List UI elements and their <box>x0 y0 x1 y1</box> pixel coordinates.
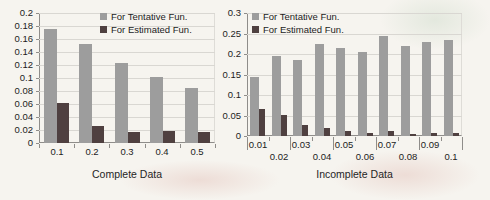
bar-estimated <box>259 109 265 136</box>
x-axis-tick-label: 0.09 <box>412 140 448 150</box>
x-axis-tick <box>398 137 399 141</box>
y-axis-tick <box>244 75 247 76</box>
y-axis-tick-label: 0 <box>0 138 33 148</box>
bar-tentative <box>185 88 198 143</box>
y-gridline <box>39 52 215 53</box>
x-axis-tick-label: 0.08 <box>390 152 426 162</box>
bar-estimated <box>163 131 175 143</box>
legend-label: For Tentative Fun. <box>263 11 339 22</box>
bar-estimated <box>324 128 330 136</box>
x-axis-tick <box>312 137 313 141</box>
x-axis-tick <box>74 144 75 148</box>
x-axis-tick <box>180 144 181 148</box>
bar-estimated <box>388 131 394 136</box>
bar-estimated <box>281 115 287 136</box>
y-axis-tick-label: 0.1 <box>0 73 33 83</box>
bar-tentative <box>79 44 92 143</box>
y-axis-tick <box>36 13 39 14</box>
bar-tentative <box>293 60 302 136</box>
bar-tentative <box>401 46 410 136</box>
y-axis-tick <box>36 39 39 40</box>
x-axis-title-complete: Complete Data <box>39 168 215 180</box>
legend: For Tentative Fun.For Estimated Fun. <box>252 10 344 35</box>
x-axis-tick <box>145 144 146 148</box>
x-axis-tick-label: 0.01 <box>240 140 276 150</box>
y-axis-tick-label: 0.06 <box>0 99 33 109</box>
y-axis-tick-label: 0.16 <box>0 34 33 44</box>
x-axis-tick <box>462 137 463 150</box>
bar-estimated <box>367 133 373 136</box>
y-axis-tick-label: 0.15 <box>220 70 241 80</box>
x-axis-tick-label: 0.2 <box>74 147 110 157</box>
y-axis-tick-label: 0.1 <box>220 90 241 100</box>
y-axis-tick-label: 0.08 <box>0 86 33 96</box>
y-axis-tick <box>36 117 39 118</box>
x-axis-tick <box>39 144 40 148</box>
bar-tentative <box>272 56 281 136</box>
legend-label: For Estimated Fun. <box>111 24 192 35</box>
x-axis-title-incomplete: Incomplete Data <box>247 168 462 180</box>
x-axis-tick <box>247 137 248 150</box>
bar-tentative <box>422 42 431 136</box>
x-axis-tick <box>333 137 334 150</box>
bar-estimated <box>128 132 140 143</box>
bar-estimated <box>198 132 210 143</box>
y-axis-tick <box>36 26 39 27</box>
legend-label: For Estimated Fun. <box>263 24 344 35</box>
bar-tentative <box>444 40 453 136</box>
x-axis-tick <box>376 137 377 150</box>
bar-tentative <box>336 48 345 136</box>
y-axis-tick-label: 0.25 <box>220 29 241 39</box>
y-axis-tick-label: 0.2 <box>0 8 33 18</box>
y-axis-tick <box>244 54 247 55</box>
bar-tentative <box>250 77 259 136</box>
y-axis-tick-label: 0.2 <box>220 49 241 59</box>
legend-label: For Tentative Fun. <box>111 11 187 22</box>
y-axis-tick-label: 0.14 <box>0 47 33 57</box>
y-axis-tick <box>244 116 247 117</box>
y-axis-tick <box>36 91 39 92</box>
legend-item: For Estimated Fun. <box>252 23 344 35</box>
x-axis-tick-label: 0.5 <box>179 147 215 157</box>
x-axis-tick-label: 0.4 <box>144 147 180 157</box>
x-axis-tick <box>215 144 216 148</box>
bar-estimated <box>92 126 104 143</box>
y-axis-tick <box>36 52 39 53</box>
y-axis-tick-label: 0.12 <box>0 60 33 70</box>
bar-estimated <box>57 103 69 143</box>
x-axis-tick-label: 0.1 <box>433 152 469 162</box>
x-axis-tick-label: 0.1 <box>39 147 75 157</box>
y-axis-tick-label: 0.3 <box>220 8 241 18</box>
y-axis-tick-label: 0.05 <box>220 111 241 121</box>
bar-tentative <box>44 29 57 143</box>
y-axis-tick <box>244 95 247 96</box>
chart-complete-data: Complete Data 00.020.040.060.080.10.120.… <box>0 0 232 195</box>
y-axis-tick-label: 0.04 <box>0 112 33 122</box>
x-axis-tick-label: 0.02 <box>261 152 297 162</box>
x-axis-tick <box>355 137 356 141</box>
legend-item: For Estimated Fun. <box>100 23 192 35</box>
legend-swatch-tentative <box>100 13 107 20</box>
bar-tentative <box>379 36 388 136</box>
y-axis-tick <box>244 34 247 35</box>
x-axis-tick <box>290 137 291 150</box>
y-axis-tick <box>36 130 39 131</box>
x-axis-tick <box>441 137 442 141</box>
y-axis-tick <box>36 104 39 105</box>
legend-swatch-tentative <box>252 13 259 20</box>
bar-estimated <box>345 131 351 136</box>
y-axis-tick <box>244 13 247 14</box>
bar-estimated <box>302 125 308 136</box>
x-axis-tick-label: 0.07 <box>369 140 405 150</box>
legend-item: For Tentative Fun. <box>252 10 344 22</box>
x-axis-tick <box>269 137 270 141</box>
x-axis-tick-label: 0.03 <box>283 140 319 150</box>
y-axis-tick <box>36 78 39 79</box>
x-axis-tick <box>109 144 110 148</box>
y-axis-tick-label: 0.02 <box>0 125 33 135</box>
bar-tentative <box>358 52 367 136</box>
legend: For Tentative Fun.For Estimated Fun. <box>100 10 192 35</box>
bar-estimated <box>431 133 437 136</box>
bar-estimated <box>453 133 459 136</box>
x-axis-tick-label: 0.3 <box>109 147 145 157</box>
